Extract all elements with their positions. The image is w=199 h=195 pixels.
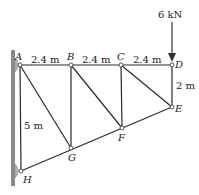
- member-cf: [121, 65, 122, 128]
- truss-joints: [18, 63, 174, 173]
- node-label-e: E: [174, 103, 183, 114]
- joint-f: [120, 126, 124, 130]
- node-label-c: C: [117, 51, 125, 62]
- node-label-h: H: [22, 174, 32, 185]
- joint-b: [69, 63, 73, 67]
- member-ag: [20, 65, 71, 148]
- dim-ab: 2.4 m: [31, 54, 60, 65]
- member-ah: [20, 65, 21, 171]
- member-ce: [121, 65, 172, 107]
- dim-ah: 5 m: [24, 120, 44, 131]
- pin-support-h-icon: [15, 164, 18, 178]
- node-label-f: F: [117, 132, 126, 143]
- joint-d: [170, 63, 174, 67]
- load-label: 6 kN: [158, 9, 183, 20]
- dim-bc: 2.4 m: [82, 54, 111, 65]
- node-label-b: B: [66, 51, 74, 62]
- dim-de: 2 m: [176, 80, 196, 91]
- joint-c: [119, 63, 123, 67]
- truss-members: [20, 65, 172, 171]
- node-label-g: G: [68, 152, 76, 163]
- load-arrow-icon: [168, 22, 176, 62]
- joint-g: [69, 146, 73, 150]
- dim-cd: 2.4 m: [133, 54, 162, 65]
- joint-a: [18, 63, 22, 67]
- joint-e: [170, 105, 174, 109]
- node-label-a: A: [14, 51, 22, 62]
- truss-diagram: 6 kN A B C D E F G H 2.4 m 2.4 m 2.4 m 2…: [0, 0, 199, 195]
- wall-support: [11, 50, 15, 186]
- node-label-d: D: [174, 59, 183, 70]
- member-bf: [71, 65, 122, 128]
- member-bottom-chord: [21, 107, 172, 171]
- joint-h: [19, 169, 23, 173]
